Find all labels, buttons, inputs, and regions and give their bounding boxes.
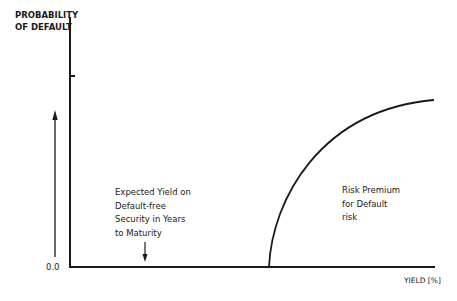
annotation-left-line1: Expected Yield on — [115, 186, 191, 200]
annotation-left-line4: to Maturity — [115, 227, 191, 241]
annotation-right-line3: risk — [342, 211, 400, 225]
down-arrow-icon — [143, 242, 148, 262]
up-arrow-icon — [52, 110, 57, 257]
y-axis-label: PROBABILITY OF DEFAULT — [15, 9, 78, 33]
annotation-right-line2: for Default — [342, 198, 400, 212]
annotation-right-line1: Risk Premium — [342, 184, 400, 198]
diagram-canvas — [0, 0, 457, 301]
annotation-expected-yield: Expected Yield on Default-free Security … — [115, 186, 191, 240]
y-axis-label-line2: OF DEFAULT — [15, 21, 78, 33]
annotation-left-line2: Default-free — [115, 200, 191, 214]
x-axis-label: YIELD [%] — [404, 275, 441, 287]
annotation-risk-premium: Risk Premium for Default risk — [342, 184, 400, 225]
y-origin-label: 0.0 — [46, 261, 60, 273]
y-axis-label-line1: PROBABILITY — [15, 9, 78, 21]
annotation-left-line3: Security in Years — [115, 213, 191, 227]
